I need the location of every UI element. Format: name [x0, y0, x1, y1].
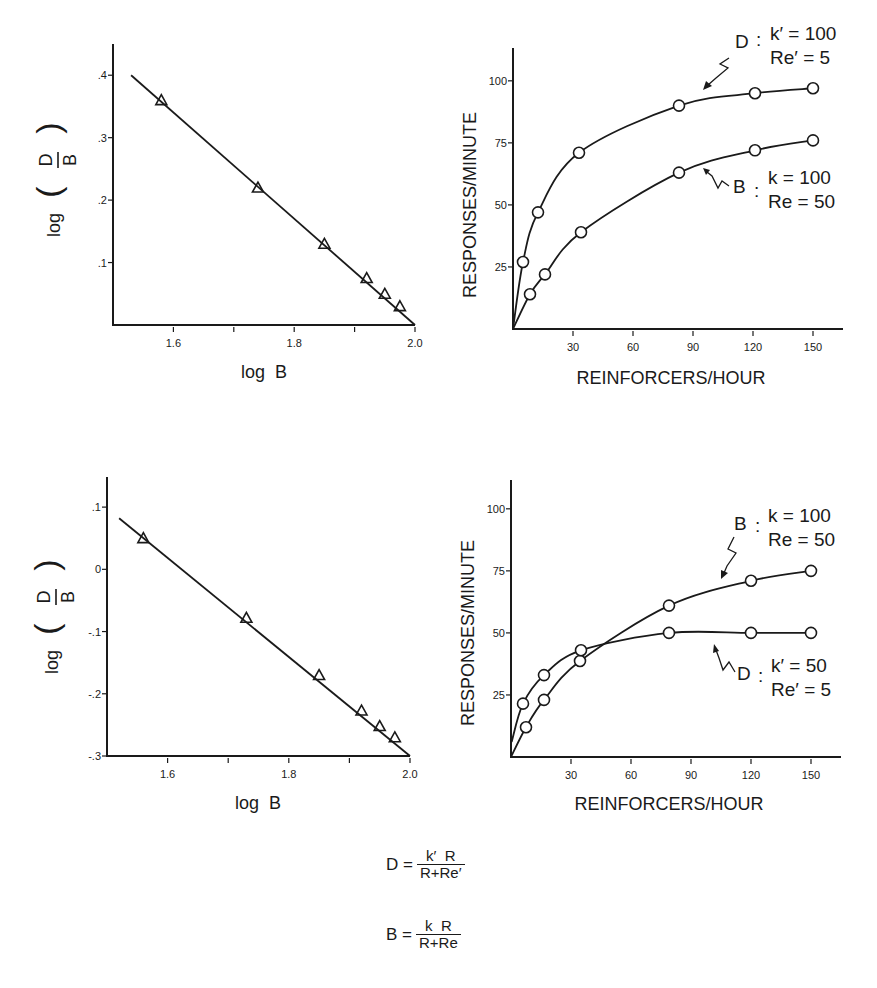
ylabel-log-bottom-fraction: ( D B ) [27, 559, 78, 634]
arrowhead-icon [713, 644, 719, 653]
annotation-bottom-B-name: B [734, 513, 747, 534]
x-tick-label: 1.6 [160, 768, 175, 780]
equation-B: B = k R R+Re [386, 918, 461, 951]
y-tick-label: 50 [493, 627, 505, 639]
squiggle-arrow-icon [716, 650, 735, 672]
equation-B-denominator: R+Re [416, 934, 461, 951]
annotation-bottom-B-line2: Re = 50 [768, 529, 835, 550]
annotation-top-D-line1: k′ = 100 [770, 23, 836, 44]
y-tick-label: 25 [495, 261, 507, 273]
y-tick-label: .1 [92, 501, 101, 513]
ylabel-log-bottom-prefix: log [42, 650, 62, 674]
annotation-bottom-D-colon: : [758, 665, 763, 686]
annotation-top-B-line2: Re = 50 [768, 191, 835, 212]
squiggle-arrow-icon [724, 537, 736, 573]
y-tick-label: 50 [495, 199, 507, 211]
series-curve-D [512, 632, 811, 742]
x-tick-label: 2.0 [407, 337, 422, 349]
ylabel-responses-top: RESPONSES/MINUTE [460, 112, 480, 298]
x-tick-label: 2.0 [402, 768, 417, 780]
figure-canvas: 1.61.82.0.1.2.3.4 log ( D B ) log B 3060… [0, 0, 877, 988]
ylabel-paren-right: ) [29, 122, 67, 133]
annotation-top-B-name: B [733, 176, 746, 197]
data-point-D [746, 627, 757, 638]
annotation-top-D-name: D [735, 31, 749, 52]
ylabel-paren-left: ( [29, 186, 67, 198]
equation-D-numerator: k′ R [423, 848, 458, 864]
data-point-B [808, 135, 819, 146]
data-point-D [664, 627, 675, 638]
data-point-D [576, 645, 587, 656]
x-tick-label: 90 [687, 341, 699, 353]
ylabel-log-top-prefix: log [44, 213, 64, 237]
x-tick-label: 60 [625, 769, 637, 781]
data-point-B [525, 289, 536, 300]
data-point-D [539, 670, 550, 681]
panel-log-top: 1.61.82.0.1.2.3.4 [98, 44, 423, 349]
data-point-D [674, 100, 685, 111]
annotation-bottom-D-name: D [737, 663, 751, 684]
equation-D-lhs: D = [386, 855, 413, 875]
data-point-triangle [379, 288, 390, 298]
y-tick-label: .1 [98, 257, 107, 269]
y-tick-label: 0 [95, 563, 101, 575]
ylabel-paren-left: ( [27, 623, 65, 635]
equation-B-lhs: B = [386, 925, 412, 945]
ylabel-responses-bottom: RESPONSES/MINUTE [458, 540, 478, 726]
data-point-triangle [156, 95, 167, 105]
data-point-D [808, 83, 819, 94]
data-point-B [674, 167, 685, 178]
annotation-top-D: D : k′ = 100 Re′ = 5 [703, 23, 836, 90]
xlabel-responses-top: REINFORCERS/HOUR [576, 368, 765, 388]
annotation-top-B-colon: : [754, 180, 759, 201]
ylabel-numerator: D [34, 591, 54, 604]
annotation-bottom-B: B : k = 100 Re = 50 [721, 505, 835, 579]
equation-D-fraction: k′ R R+Re′ [417, 848, 465, 881]
equation-B-numerator: k R [422, 918, 455, 934]
x-tick-label: 120 [742, 769, 760, 781]
annotation-bottom-D: D : k′ = 50 Re′ = 5 [713, 644, 831, 700]
data-point-triangle [361, 273, 372, 283]
data-point-B [746, 575, 757, 586]
data-point-D [518, 698, 529, 709]
equation-B-fraction: k R R+Re [416, 918, 461, 951]
x-tick-label: 1.8 [287, 337, 302, 349]
data-point-D [750, 88, 761, 99]
y-tick-label: -.2 [88, 688, 101, 700]
y-tick-label: 100 [489, 75, 507, 87]
panel-log-bottom: 1.61.82.0-.3-.2-.10.1 [88, 477, 417, 780]
equation-D: D = k′ R R+Re′ [386, 848, 465, 881]
data-point-triangle [319, 238, 330, 248]
annotation-bottom-B-line1: k = 100 [768, 505, 831, 526]
y-tick-label: .3 [98, 132, 107, 144]
x-tick-label: 120 [744, 341, 762, 353]
x-tick-label: 30 [567, 341, 579, 353]
data-point-B [539, 694, 550, 705]
x-tick-label: 150 [804, 341, 822, 353]
x-tick-label: 150 [802, 769, 820, 781]
data-point-B [521, 722, 532, 733]
data-point-D [533, 207, 544, 218]
xlabel-log-bottom: log B [235, 793, 281, 813]
y-tick-label: -.3 [88, 750, 101, 762]
annotation-bottom-D-line2: Re′ = 5 [771, 679, 831, 700]
annotation-top-D-line2: Re′ = 5 [770, 47, 830, 68]
data-point-D [574, 147, 585, 158]
y-tick-label: 75 [495, 137, 507, 149]
y-tick-label: 25 [493, 689, 505, 701]
data-point-B [806, 565, 817, 576]
y-tick-label: 100 [487, 503, 505, 515]
squiggle-arrow-icon [707, 172, 729, 188]
ylabel-paren-right: ) [27, 559, 65, 570]
annotation-top-B: B : k = 100 Re = 50 [703, 167, 835, 212]
xlabel-log-top: log B [241, 362, 287, 382]
xlabel-responses-bottom: REINFORCERS/HOUR [574, 794, 763, 814]
data-point-B [750, 145, 761, 156]
y-tick-label: .4 [98, 69, 107, 81]
data-point-B [664, 600, 675, 611]
ylabel-denominator: B [60, 154, 80, 166]
x-tick-label: 1.6 [166, 337, 181, 349]
ylabel-denominator: B [58, 591, 78, 603]
annotation-bottom-B-colon: : [755, 515, 760, 536]
y-tick-label: .2 [98, 194, 107, 206]
